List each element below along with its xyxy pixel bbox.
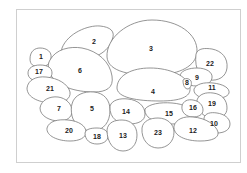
label-4: 4 bbox=[151, 88, 155, 95]
label-18: 18 bbox=[93, 133, 101, 140]
label-16: 16 bbox=[189, 104, 197, 111]
label-2: 2 bbox=[92, 38, 96, 45]
shell-4 bbox=[117, 68, 190, 101]
shell-7 bbox=[40, 97, 72, 121]
label-13: 13 bbox=[119, 132, 127, 139]
label-20: 20 bbox=[65, 127, 73, 134]
label-5: 5 bbox=[90, 105, 94, 112]
label-9: 9 bbox=[195, 74, 199, 81]
label-1: 1 bbox=[39, 53, 43, 60]
shell-outlines bbox=[27, 20, 230, 151]
label-23: 23 bbox=[154, 129, 162, 136]
label-8: 8 bbox=[185, 79, 189, 86]
label-3: 3 bbox=[149, 45, 153, 52]
label-6: 6 bbox=[78, 67, 82, 74]
label-11: 11 bbox=[208, 84, 216, 91]
label-22: 22 bbox=[206, 60, 214, 67]
label-17: 17 bbox=[35, 68, 43, 75]
label-10: 10 bbox=[210, 120, 218, 127]
label-14: 14 bbox=[122, 108, 130, 115]
label-15: 15 bbox=[165, 110, 173, 117]
label-19: 19 bbox=[208, 100, 216, 107]
label-21: 21 bbox=[46, 85, 54, 92]
shell-key-diagram: 1 2 3 4 5 6 7 8 9 10 11 12 13 14 15 16 1… bbox=[0, 0, 247, 173]
label-12: 12 bbox=[189, 127, 197, 134]
label-7: 7 bbox=[57, 105, 61, 112]
